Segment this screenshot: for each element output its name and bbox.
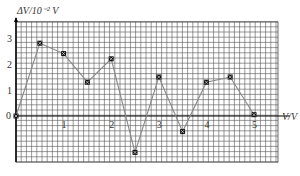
data-point bbox=[156, 75, 161, 80]
x-tick-label: 4 bbox=[204, 119, 209, 130]
data-point bbox=[61, 51, 66, 56]
data-point bbox=[204, 80, 209, 85]
x-tick-label: 3 bbox=[157, 119, 162, 130]
x-tick-label: 1 bbox=[62, 119, 67, 130]
data-point bbox=[14, 114, 19, 119]
y-tick-label: 2 bbox=[7, 59, 12, 70]
grid bbox=[16, 22, 278, 162]
chart-svg: 12345123 ΔV/10⁻² V V/V 0 bbox=[0, 0, 300, 176]
data-point bbox=[37, 41, 42, 46]
origin-label: 0 bbox=[6, 110, 11, 121]
data-point bbox=[252, 112, 257, 117]
axes bbox=[14, 17, 290, 162]
data-point bbox=[180, 129, 185, 134]
data-point bbox=[228, 75, 233, 80]
x-tick-label: 5 bbox=[252, 119, 257, 130]
y-tick-label: 1 bbox=[7, 85, 12, 96]
y-axis-label: ΔV/10⁻² V bbox=[16, 5, 60, 16]
data-point bbox=[85, 80, 90, 85]
x-axis-label: V/V bbox=[282, 111, 299, 122]
data-point bbox=[109, 56, 114, 61]
x-tick-label: 2 bbox=[109, 119, 114, 130]
y-tick-label: 3 bbox=[7, 33, 12, 44]
data-point bbox=[133, 150, 138, 155]
